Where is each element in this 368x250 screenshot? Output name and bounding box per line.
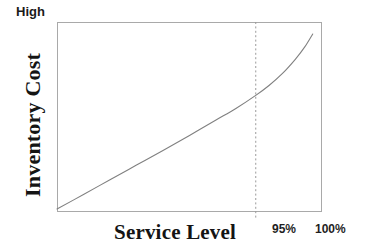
y-axis-high-label: High [16, 4, 45, 19]
x-axis-title: Service Level [114, 220, 236, 245]
y-axis-title: Inventory Cost [20, 53, 46, 197]
x-tick-label-100: 100% [315, 222, 346, 236]
chart-figure: High Inventory Cost Service Level 95% 10… [0, 0, 368, 250]
plot-area-frame [57, 22, 322, 212]
x-tick-label-95: 95% [272, 222, 296, 236]
